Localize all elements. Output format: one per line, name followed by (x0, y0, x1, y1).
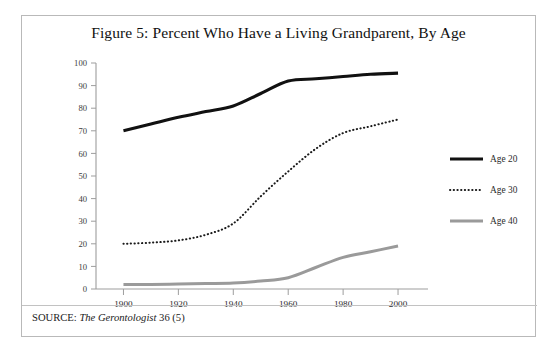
figure-frame: Figure 5: Percent Who Have a Living Gran… (21, 15, 536, 337)
y-axis-tick-label: 0 (83, 284, 87, 294)
series-line-age-20 (123, 73, 398, 131)
x-axis-tick-label: 1980 (334, 299, 353, 309)
legend-label-3[interactable]: Age 40 (490, 216, 518, 226)
source-label: SOURCE: (32, 312, 77, 323)
y-axis-tick-label: 30 (78, 216, 87, 226)
legend-label-2[interactable]: Age 30 (490, 185, 518, 195)
y-axis: 0102030405060708090100 (74, 58, 96, 294)
y-axis-tick-label: 20 (78, 239, 87, 249)
x-axis-tick-label: 1960 (279, 299, 298, 309)
source-note: SOURCE: The Gerontologist 36 (5) (32, 312, 185, 323)
x-axis-tick-label: 1940 (224, 299, 243, 309)
chart-series-group (123, 73, 398, 284)
x-axis-tick-label: 2000 (389, 299, 408, 309)
legend-label-1[interactable]: Age 20 (490, 154, 518, 164)
chart-legend: Age 20Age 30Age 40 (450, 154, 518, 226)
x-axis-tick-label: 1900 (114, 299, 133, 309)
x-axis: 190019201940196019802000 (96, 289, 428, 309)
series-line-age-30 (123, 120, 398, 244)
y-axis-tick-label: 60 (78, 149, 87, 159)
series-line-age-40 (123, 246, 398, 284)
y-axis-tick-label: 50 (78, 171, 87, 181)
source-divider (22, 305, 537, 306)
y-axis-tick-label: 70 (78, 126, 87, 136)
source-citation: 36 (5) (159, 312, 185, 323)
chart-plot-area: 0102030405060708090100 19001920194019601… (22, 16, 537, 338)
y-axis-tick-label: 100 (74, 58, 87, 68)
y-axis-tick-label: 80 (78, 103, 87, 113)
y-axis-tick-label: 10 (78, 262, 87, 272)
x-axis-tick-label: 1920 (169, 299, 188, 309)
line-chart: 0102030405060708090100 19001920194019601… (22, 16, 537, 338)
y-axis-tick-label: 40 (78, 194, 87, 204)
y-axis-tick-label: 90 (78, 81, 87, 91)
source-journal: The Gerontologist (79, 312, 156, 323)
